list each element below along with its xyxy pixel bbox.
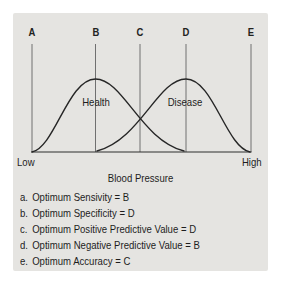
- legend-item-text: Optimum Accuracy = C: [32, 253, 130, 269]
- marker-label-e: E: [240, 26, 262, 38]
- legend-item-letter: e.: [20, 253, 32, 269]
- disease-curve-label: Disease: [159, 96, 211, 108]
- legend-item-c: c. Optimum Positive Predictive Value = D: [20, 221, 234, 237]
- legend-item-letter: d.: [20, 237, 32, 253]
- marker-label-d: D: [175, 26, 197, 38]
- marker-lines: [32, 44, 251, 152]
- figure-page: A B C D E Health Disease Low High Blood …: [0, 0, 282, 284]
- legend-item-text: Optimum Specificity = D: [32, 205, 134, 221]
- marker-label-a: A: [21, 26, 43, 38]
- legend-item-b: b. Optimum Specificity = D: [20, 205, 234, 221]
- legend-item-letter: b.: [20, 205, 32, 221]
- legend-item-text: Optimum Positive Predictive Value = D: [32, 221, 196, 237]
- legend-item-d: d. Optimum Negative Predictive Value = B: [20, 237, 234, 253]
- legend-item-a: a. Optimum Sensivity = B: [20, 189, 234, 205]
- legend-item-letter: a.: [20, 189, 32, 205]
- marker-label-b: B: [85, 26, 107, 38]
- disease-curve: [97, 79, 250, 152]
- legend-list: a. Optimum Sensivity = B b. Optimum Spec…: [20, 189, 266, 269]
- legend-item-letter: c.: [20, 221, 32, 237]
- health-curve-label: Health: [69, 96, 121, 108]
- legend-item-e: e. Optimum Accuracy = C: [20, 253, 234, 269]
- figure-card: A B C D E Health Disease Low High Blood …: [13, 13, 268, 271]
- marker-label-c: C: [129, 26, 151, 38]
- health-curve: [32, 79, 184, 152]
- x-axis-high-label: High: [242, 156, 262, 168]
- legend-item-text: Optimum Negative Predictive Value = B: [32, 237, 200, 253]
- x-axis-title: Blood Pressure: [30, 172, 252, 184]
- legend-item-text: Optimum Sensivity = B: [32, 189, 129, 205]
- x-axis-low-label: Low: [17, 156, 35, 168]
